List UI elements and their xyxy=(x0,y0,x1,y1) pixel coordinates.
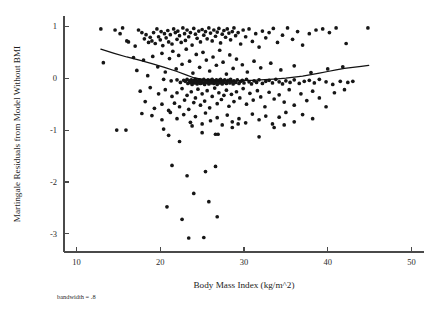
data-point xyxy=(301,113,305,117)
data-point xyxy=(264,114,268,118)
data-point xyxy=(168,57,172,61)
data-point xyxy=(286,26,290,30)
data-point xyxy=(170,95,174,99)
data-point xyxy=(181,26,185,30)
data-point xyxy=(170,164,174,168)
data-point xyxy=(301,43,305,47)
data-point xyxy=(171,49,175,53)
data-point xyxy=(157,92,161,96)
data-point xyxy=(198,66,202,70)
data-point xyxy=(177,54,181,58)
data-point xyxy=(224,35,228,39)
data-point xyxy=(173,101,177,105)
data-point xyxy=(121,26,125,30)
data-point xyxy=(187,236,191,240)
data-point xyxy=(252,59,256,63)
data-point xyxy=(281,82,285,86)
data-point xyxy=(292,64,296,68)
data-point xyxy=(202,33,206,37)
data-point xyxy=(208,106,212,110)
data-point xyxy=(222,29,226,33)
data-point xyxy=(215,63,219,67)
data-point xyxy=(225,27,229,31)
x-tick-label: 10 xyxy=(72,257,81,267)
data-point xyxy=(163,32,167,36)
data-point xyxy=(318,96,322,100)
data-point xyxy=(328,31,332,35)
x-tick-label: 30 xyxy=(240,257,249,267)
y-axis-ticks: 10-1-2-3 xyxy=(50,21,69,238)
x-axis-title: Body Mass Index (kg/m^2) xyxy=(193,280,294,290)
data-point xyxy=(251,112,255,116)
data-point xyxy=(240,63,244,67)
y-axis-title: Martingale Residuals from Model Without … xyxy=(12,46,22,222)
data-point xyxy=(215,30,219,34)
data-point xyxy=(194,96,198,100)
data-point xyxy=(231,67,235,71)
data-point xyxy=(189,31,193,35)
data-point xyxy=(256,89,260,93)
data-point xyxy=(183,32,187,36)
data-point xyxy=(271,27,275,31)
data-point xyxy=(292,103,296,107)
data-point xyxy=(194,115,198,119)
data-point xyxy=(179,81,183,85)
data-point xyxy=(236,122,240,126)
data-point xyxy=(333,91,337,95)
data-point xyxy=(118,32,122,36)
data-point xyxy=(296,30,300,34)
data-point xyxy=(305,99,309,103)
data-point xyxy=(324,80,328,84)
data-point xyxy=(237,117,241,121)
data-point xyxy=(344,42,348,46)
data-point xyxy=(230,120,234,124)
data-point xyxy=(200,28,204,32)
data-point xyxy=(183,98,187,102)
data-point xyxy=(180,87,184,91)
data-point xyxy=(279,68,283,72)
data-point xyxy=(246,70,250,74)
data-point xyxy=(250,82,254,86)
data-point xyxy=(251,98,255,102)
data-point xyxy=(143,37,147,41)
data-point xyxy=(194,32,198,36)
scatter-plot-figure: 1020304050 10-1-2-3 Body Mass Index (kg/… xyxy=(0,0,443,318)
data-point xyxy=(159,30,163,34)
data-point xyxy=(182,113,186,117)
data-point xyxy=(271,122,275,126)
data-point xyxy=(321,27,325,31)
data-point xyxy=(229,38,233,42)
data-point xyxy=(99,27,103,31)
data-point xyxy=(175,78,179,82)
data-point xyxy=(217,91,221,95)
data-point xyxy=(158,38,162,42)
plot-axes xyxy=(64,16,424,252)
y-tick-label: 1 xyxy=(53,21,57,31)
data-point xyxy=(287,88,291,92)
data-point xyxy=(178,105,182,109)
data-point xyxy=(261,82,265,86)
x-tick-label: 50 xyxy=(407,257,416,267)
data-point xyxy=(204,170,208,174)
data-point xyxy=(172,27,176,31)
data-point xyxy=(272,97,276,101)
data-point xyxy=(212,28,216,32)
data-point xyxy=(140,31,144,35)
data-point xyxy=(282,123,286,127)
data-point xyxy=(191,71,195,75)
data-point xyxy=(146,74,150,78)
data-point xyxy=(166,29,170,33)
data-point xyxy=(180,217,184,221)
data-point xyxy=(235,90,239,94)
data-point xyxy=(230,126,234,130)
data-points-layer xyxy=(99,26,370,240)
data-point xyxy=(239,42,243,46)
data-point xyxy=(311,117,315,121)
data-point xyxy=(184,39,188,43)
data-point xyxy=(200,131,204,135)
data-point xyxy=(311,89,315,93)
data-point xyxy=(232,26,236,30)
data-point xyxy=(227,104,231,108)
data-point xyxy=(284,111,288,115)
data-point xyxy=(244,35,248,39)
